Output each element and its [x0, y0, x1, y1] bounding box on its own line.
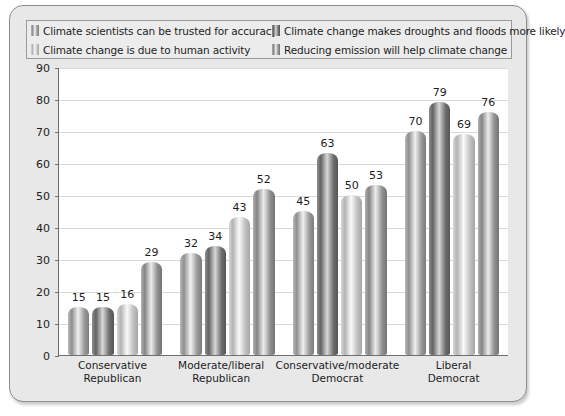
- bar-slot: 52: [253, 68, 274, 355]
- bar-value-label: 45: [296, 195, 310, 208]
- x-axis-category-labels: ConservativeRepublicanModerate/liberalRe…: [58, 359, 508, 385]
- bar[interactable]: 34: [205, 246, 226, 355]
- bar-slot: 45: [293, 68, 314, 355]
- category-label-line: Democrat: [276, 372, 400, 385]
- bar-value-label: 69: [457, 118, 471, 131]
- y-axis: 9080706050403020100: [26, 68, 54, 356]
- bar-group: 45635053: [284, 68, 396, 355]
- y-axis-tick-mark: [55, 356, 59, 357]
- bar[interactable]: 76: [478, 112, 499, 355]
- bar-slot: 70: [405, 68, 426, 355]
- y-axis-tick-label: 50: [36, 190, 50, 203]
- category-label-line: Democrat: [399, 372, 508, 385]
- bar[interactable]: 53: [365, 185, 386, 355]
- bar-value-label: 76: [481, 96, 495, 109]
- legend-item-3[interactable]: Reducing emission will help climate chan…: [268, 44, 513, 56]
- x-axis-category-label: Conservative/moderateDemocrat: [276, 359, 400, 385]
- bar[interactable]: 16: [117, 304, 138, 355]
- bar-value-label: 63: [320, 137, 334, 150]
- bar-group: 70796976: [396, 68, 508, 355]
- bar[interactable]: 50: [341, 195, 362, 355]
- bar[interactable]: 69: [453, 134, 474, 355]
- x-axis-category-label: Moderate/liberalRepublican: [167, 359, 276, 385]
- bar-value-label: 50: [345, 179, 359, 192]
- legend-swatch-icon-2: [31, 44, 39, 55]
- bar-group: 15151629: [59, 68, 171, 355]
- x-axis-category-label: ConservativeRepublican: [58, 359, 167, 385]
- bar-value-label: 53: [369, 169, 383, 182]
- bar[interactable]: 52: [253, 189, 274, 355]
- bar[interactable]: 45: [293, 211, 314, 355]
- bar[interactable]: 15: [92, 307, 113, 355]
- y-axis-tick-label: 70: [36, 126, 50, 139]
- bar-slot: 15: [68, 68, 89, 355]
- bar-slot: 43: [229, 68, 250, 355]
- bar-slot: 32: [180, 68, 201, 355]
- bar-slot: 15: [92, 68, 113, 355]
- plot-area: 15151629323443524563505370796976: [58, 68, 508, 356]
- bar-value-label: 43: [233, 201, 247, 214]
- legend-item-1[interactable]: Climate change makes droughts and floods…: [268, 25, 513, 37]
- bar-groups: 15151629323443524563505370796976: [59, 68, 508, 355]
- bar-slot: 63: [317, 68, 338, 355]
- bar-slot: 53: [365, 68, 386, 355]
- chart-frame: Climate scientists can be trusted for ac…: [9, 5, 527, 402]
- bar[interactable]: 15: [68, 307, 89, 355]
- category-label-line: Conservative: [58, 359, 167, 372]
- bar-slot: 76: [478, 68, 499, 355]
- category-label-line: Republican: [58, 372, 167, 385]
- y-axis-tick-label: 60: [36, 158, 50, 171]
- y-axis-tick-label: 0: [43, 350, 50, 363]
- bar-slot: 69: [453, 68, 474, 355]
- y-axis-tick-label: 30: [36, 254, 50, 267]
- y-axis-tick-label: 90: [36, 62, 50, 75]
- bar-group: 32344352: [171, 68, 283, 355]
- category-label-line: Republican: [167, 372, 276, 385]
- bar[interactable]: 70: [405, 131, 426, 355]
- legend-swatch-icon-1: [272, 25, 280, 36]
- legend-item-0[interactable]: Climate scientists can be trusted for ac…: [27, 25, 268, 37]
- legend-swatch-icon-0: [31, 25, 39, 36]
- y-axis-tick-label: 10: [36, 318, 50, 331]
- category-label-line: Liberal: [399, 359, 508, 372]
- y-axis-tick-label: 40: [36, 222, 50, 235]
- bar[interactable]: 32: [180, 253, 201, 355]
- legend-label-1: Climate change makes droughts and floods…: [284, 25, 565, 37]
- bar-value-label: 29: [145, 246, 159, 259]
- bar-slot: 34: [205, 68, 226, 355]
- bar-value-label: 32: [184, 237, 198, 250]
- bar[interactable]: 63: [317, 153, 338, 355]
- bar-value-label: 70: [408, 115, 422, 128]
- legend-item-2[interactable]: Climate change is due to human activity: [27, 44, 268, 56]
- legend-label-3: Reducing emission will help climate chan…: [284, 44, 507, 56]
- bar-value-label: 15: [72, 291, 86, 304]
- x-axis-category-label: LiberalDemocrat: [399, 359, 508, 385]
- bar-value-label: 16: [120, 288, 134, 301]
- y-axis-tick-label: 20: [36, 286, 50, 299]
- bar[interactable]: 79: [429, 102, 450, 355]
- category-label-line: Moderate/liberal: [167, 359, 276, 372]
- bar-value-label: 15: [96, 291, 110, 304]
- bar-value-label: 34: [208, 230, 222, 243]
- legend-label-2: Climate change is due to human activity: [43, 44, 250, 56]
- plot-wrapper: 9080706050403020100 15151629323443524563…: [26, 68, 512, 373]
- bar-slot: 79: [429, 68, 450, 355]
- bar-slot: 16: [117, 68, 138, 355]
- bar-value-label: 79: [433, 86, 447, 99]
- bar-slot: 29: [141, 68, 162, 355]
- bar-value-label: 52: [257, 173, 271, 186]
- bar-slot: 50: [341, 68, 362, 355]
- chart-legend: Climate scientists can be trusted for ac…: [26, 20, 512, 59]
- legend-swatch-icon-3: [272, 44, 280, 55]
- y-axis-tick-label: 80: [36, 94, 50, 107]
- category-label-line: Conservative/moderate: [276, 359, 400, 372]
- legend-label-0: Climate scientists can be trusted for ac…: [43, 25, 278, 37]
- bar[interactable]: 29: [141, 262, 162, 355]
- bar[interactable]: 43: [229, 217, 250, 355]
